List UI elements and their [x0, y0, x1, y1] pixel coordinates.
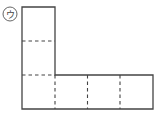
net-outline	[22, 7, 153, 109]
figure-label: ウ	[3, 7, 17, 21]
figure-label-text: ウ	[6, 10, 15, 20]
net-diagram: ウ	[0, 0, 160, 117]
